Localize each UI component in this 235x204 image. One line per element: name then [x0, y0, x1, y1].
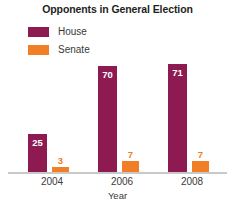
bar-value-house-2008: 71 [168, 67, 187, 78]
bar-value-senate-2006: 7 [122, 149, 139, 160]
bar-chart: Opponents in General Election House Sena… [0, 0, 235, 204]
bar-value-senate-2008: 7 [192, 149, 209, 160]
bar-senate-2004: 3 [52, 167, 69, 172]
bar-value-senate-2004: 3 [52, 155, 69, 166]
bar-senate-2008: 7 [192, 161, 209, 172]
bar-house-2008: 71 [168, 64, 187, 172]
bar-value-house-2004: 25 [28, 137, 47, 148]
bar-house-2004: 25 [28, 134, 47, 172]
bar-house-2006: 70 [98, 66, 117, 172]
bar-group-2004: 25 3 [16, 0, 88, 204]
bar-group-2008: 71 7 [156, 0, 228, 204]
x-tick-2004: 2004 [16, 176, 88, 187]
bar-value-house-2006: 70 [98, 69, 117, 80]
x-axis-title: Year [0, 190, 235, 201]
bar-group-2006: 70 7 [86, 0, 158, 204]
x-tick-2006: 2006 [86, 176, 158, 187]
plot-area: 25 3 70 7 71 7 2004 2006 2008 [0, 0, 235, 204]
bar-senate-2006: 7 [122, 161, 139, 172]
x-tick-2008: 2008 [156, 176, 228, 187]
